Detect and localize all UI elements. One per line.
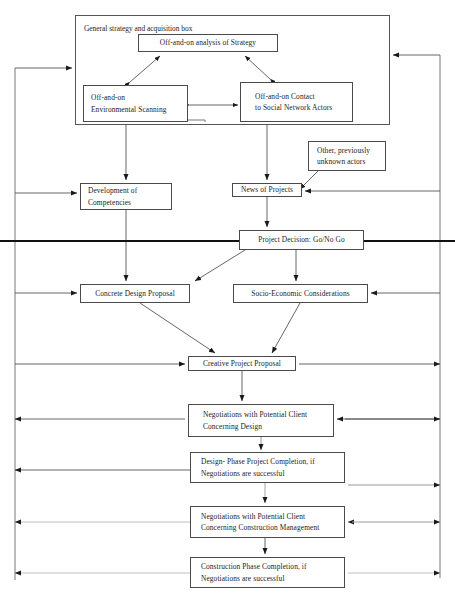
- node-label: Creative Project Proposal: [203, 358, 281, 369]
- node-negotiations-design[interactable]: Negotiations with Potential Client Conce…: [188, 404, 334, 437]
- node-label-line1: Negotiations with Potential Client: [203, 409, 307, 420]
- node-socio-economic-considerations[interactable]: Socio-Economic Considerations: [233, 284, 368, 303]
- node-negotiations-construction[interactable]: Negotiations with Potential Client Conce…: [190, 506, 345, 538]
- node-construction-phase-completion[interactable]: Construction Phase Completion, if Negoti…: [190, 557, 345, 588]
- node-project-decision[interactable]: Project Decision: Go/No Go: [239, 230, 364, 250]
- right-feedback-bus: [299, 55, 440, 578]
- node-design-phase-completion[interactable]: Design- Phase Project Completion, if Neg…: [190, 452, 345, 483]
- node-label-line1: Other, previously: [317, 145, 370, 156]
- node-other-unknown-actors[interactable]: Other, previously unknown actors: [308, 141, 386, 171]
- node-label-line1: Off-and-on Contact: [255, 91, 315, 102]
- edge-concrete-creative: [140, 303, 215, 353]
- node-concrete-design-proposal[interactable]: Concrete Design Proposal: [80, 284, 190, 303]
- flowchart-diagram: General strategy and acquisition box: [0, 0, 455, 602]
- node-label: Project Decision: Go/No Go: [258, 234, 345, 245]
- node-label-line2: Negotiations are successful: [201, 573, 285, 584]
- node-environmental-scanning[interactable]: Off-and-on Environmental Scanning: [83, 85, 188, 122]
- node-label: Concrete Design Proposal: [95, 288, 175, 299]
- node-development-competencies[interactable]: Development of Competencies: [80, 183, 172, 210]
- node-social-network-contact[interactable]: Off-and-on Contact to Social Network Act…: [240, 82, 353, 122]
- node-label: News of Projects: [241, 184, 293, 195]
- decision-gate-divider: [0, 240, 455, 242]
- node-label-line2: unknown actors: [317, 156, 365, 167]
- node-label-line1: Construction Phase Completion, if: [201, 561, 307, 572]
- general-strategy-container-label: General strategy and acquisition box: [84, 24, 192, 33]
- node-label-line2: Concerning Construction Management: [201, 522, 319, 533]
- edge-socio-creative: [272, 303, 300, 353]
- node-label-line2: Concerning Design: [203, 421, 262, 432]
- node-label-line2: Competencies: [88, 197, 131, 208]
- edge-decision-concrete: [195, 250, 245, 281]
- node-label-line1: Negotiations with Potential Client: [201, 511, 305, 522]
- node-label: Off-and-on analysis of Strategy: [160, 37, 256, 48]
- node-label: Socio-Economic Considerations: [251, 288, 349, 299]
- node-label-line1: Design- Phase Project Completion, if: [201, 456, 315, 467]
- edge-unknown-news: [300, 171, 318, 189]
- node-news-of-projects[interactable]: News of Projects: [232, 183, 302, 197]
- node-label-line2: Environmental Scanning: [91, 104, 166, 115]
- left-feedback-bus: [15, 68, 190, 580]
- node-label-line1: Development of: [88, 185, 137, 196]
- node-label-line2: to Social Network Actors: [255, 102, 332, 113]
- node-strategy-analysis[interactable]: Off-and-on analysis of Strategy: [138, 34, 278, 52]
- node-creative-project-proposal[interactable]: Creative Project Proposal: [188, 356, 296, 371]
- node-label-line2: Negotiations are successful: [201, 468, 285, 479]
- node-label-line1: Off-and-on: [91, 92, 125, 103]
